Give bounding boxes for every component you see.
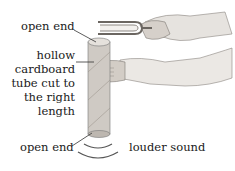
label-line: the right bbox=[0, 90, 75, 104]
label-hollow-tube: hollow cardboard tube cut to the right l… bbox=[0, 48, 75, 118]
label-line: tube cut to bbox=[0, 76, 75, 90]
label-line: hollow bbox=[0, 48, 75, 62]
leader-open-end-bottom bbox=[72, 133, 92, 146]
label-line: cardboard bbox=[0, 62, 75, 76]
label-line: length bbox=[0, 104, 75, 118]
leader-open-end-top bbox=[74, 30, 96, 42]
upper-arm-holding-fork bbox=[140, 12, 232, 41]
label-open-end-top: open end bbox=[21, 19, 75, 33]
lower-arm-holding-tube bbox=[92, 48, 232, 86]
label-open-end-bottom: open end bbox=[20, 140, 74, 154]
cardboard-tube bbox=[88, 38, 110, 138]
label-louder-sound: louder sound bbox=[129, 140, 205, 154]
sound-waves-icon bbox=[78, 144, 118, 158]
